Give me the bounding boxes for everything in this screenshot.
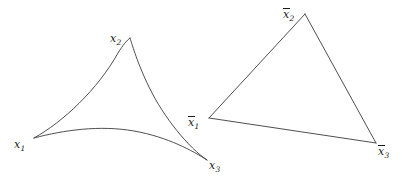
- variable-glyph: x: [283, 9, 289, 20]
- subscript-glyph: 1: [21, 144, 26, 153]
- vertex-label-xbar3: x3: [378, 146, 389, 157]
- variable-letter: x: [378, 145, 384, 158]
- subscript-glyph: 3: [385, 151, 390, 160]
- deltoid-edge-x2-x3: [130, 38, 207, 160]
- deltoid-edge-x1-x2: [34, 38, 130, 138]
- variable-glyph: x: [378, 146, 384, 157]
- vertex-label-xbar1: x1: [188, 117, 199, 128]
- triangle-edge-xbar1-xbar3: [209, 118, 376, 143]
- variable-glyph: x: [209, 160, 215, 171]
- vertex-label-xbar2: x2: [283, 9, 294, 20]
- subscript-glyph: 2: [117, 38, 122, 47]
- variable-glyph: x: [110, 33, 116, 44]
- straight-triangle-shape: [209, 14, 376, 143]
- vertex-label-x3: x3: [209, 160, 220, 171]
- overbar-accent: [283, 8, 291, 9]
- triangle-edge-xbar1-xbar2: [209, 14, 305, 118]
- variable-letter: x: [188, 116, 194, 129]
- subscript-glyph: 2: [290, 14, 295, 23]
- overbar-accent: [378, 145, 386, 146]
- variable-glyph: x: [188, 117, 194, 128]
- overbar-accent: [188, 116, 196, 117]
- figure-drawing: [0, 0, 405, 179]
- deltoid-edge-x1-x3: [34, 128, 207, 160]
- subscript-glyph: 3: [216, 165, 221, 174]
- variable-glyph: x: [14, 139, 20, 150]
- curvilinear-triangle-shape: [34, 38, 207, 160]
- subscript-glyph: 1: [195, 122, 200, 131]
- figure-canvas: x1 x2 x3 x1 x2 x3: [0, 0, 405, 179]
- vertex-label-x2: x2: [110, 33, 121, 44]
- triangle-edge-xbar2-xbar3: [305, 14, 376, 143]
- variable-letter: x: [283, 8, 289, 21]
- vertex-label-x1: x1: [14, 139, 25, 150]
